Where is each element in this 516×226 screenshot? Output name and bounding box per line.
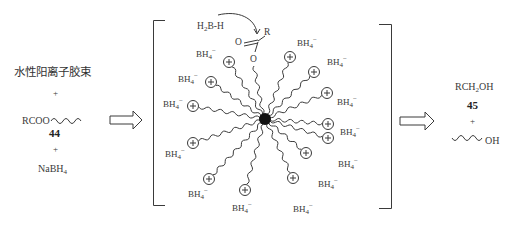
alkyl-chain-icon [452,136,482,141]
reaction-scheme: 水性阳离子胶束 + RCOO 44 + NaBH4 H2B-H O R O BH… [0,0,516,226]
left-bracket [154,21,166,206]
surfactant-chain [213,123,262,175]
curved-arrow-icon [218,14,257,33]
surfactant-chain [247,124,264,184]
micelle-core [259,113,271,125]
alkyl-chain-icon [51,119,81,124]
micelle-drawing [0,0,516,226]
surfactant-chain [269,76,310,115]
right-bracket [379,25,392,209]
reaction-arrow-2 [400,112,434,130]
reaction-arrow-1 [110,111,142,129]
surfactant-chain [216,85,261,116]
surfactant-chain [199,120,261,141]
